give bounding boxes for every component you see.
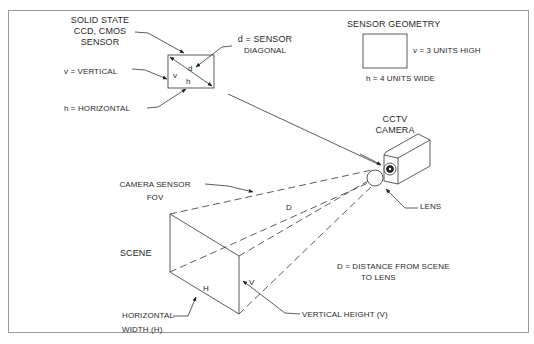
distance-note-line2: TO LENS [337,273,450,283]
sensor-title-line2: CCD, CMOS [40,26,160,37]
distance-symbol: D [286,203,292,213]
vertical-label: v = VERTICAL [64,67,117,77]
sensor-inner-v: v [173,71,177,81]
camera-label-line2: CAMERA [365,125,425,136]
scene-label: SCENE [120,248,152,259]
horizontal-width-label-line1: HORIZONTAL [122,311,174,321]
scene-v-symbol: V [249,278,254,288]
sensor-geometry-title: SENSOR GEOMETRY [347,19,440,30]
distance-note-line1: D = DISTANCE FROM SCENE [337,262,450,272]
fov-dashed-lines [170,170,372,314]
horizontal-width-label-line2: WIDTH (H) [122,325,174,335]
lens-circle [367,170,383,186]
sensor-geometry-height: v = 3 UNITS HIGH [413,46,481,56]
cctv-camera-body [384,134,430,184]
lens-leader [386,189,418,208]
distance-note: D = DISTANCE FROM SCENE TO LENS [337,262,450,283]
horizontal-width-leader [173,297,196,316]
scene-box [170,214,239,314]
fov-leader [205,184,253,192]
horizontal-label: h = HORIZONTAL [64,104,130,114]
sensor-to-camera-line [228,94,380,165]
fov-label: CAMERA SENSOR FOV [110,180,200,203]
sensor-title-line1: SOLID STATE [40,15,160,26]
fov-label-line1: CAMERA SENSOR [110,180,200,190]
sensor-geometry-width: h = 4 UNITS WIDE [366,74,435,84]
camera-label: CCTV CAMERA [365,114,425,136]
sensor-inner-d: d [188,64,193,74]
fov-label-line2: FOV [110,193,200,203]
camera-leader [360,154,381,165]
lens-label: LENS [420,202,441,212]
sensor-inner-h: h [186,77,191,87]
camera-label-line1: CCTV [365,114,425,125]
sensor-title-line3: SENSOR [40,37,160,48]
diagonal-label-line2: DIAGONAL [225,45,305,56]
sensor-geometry-box [363,34,407,68]
scene-h-symbol: H [203,284,209,294]
diagonal-label: d = SENSOR DIAGONAL [225,34,305,56]
horizontal-width-label: HORIZONTAL WIDTH (H) [122,311,174,335]
diagonal-label-line1: d = SENSOR [225,34,305,45]
vertical-height-label: VERTICAL HEIGHT (V) [302,310,388,320]
sensor-title: SOLID STATE CCD, CMOS SENSOR [40,15,160,48]
